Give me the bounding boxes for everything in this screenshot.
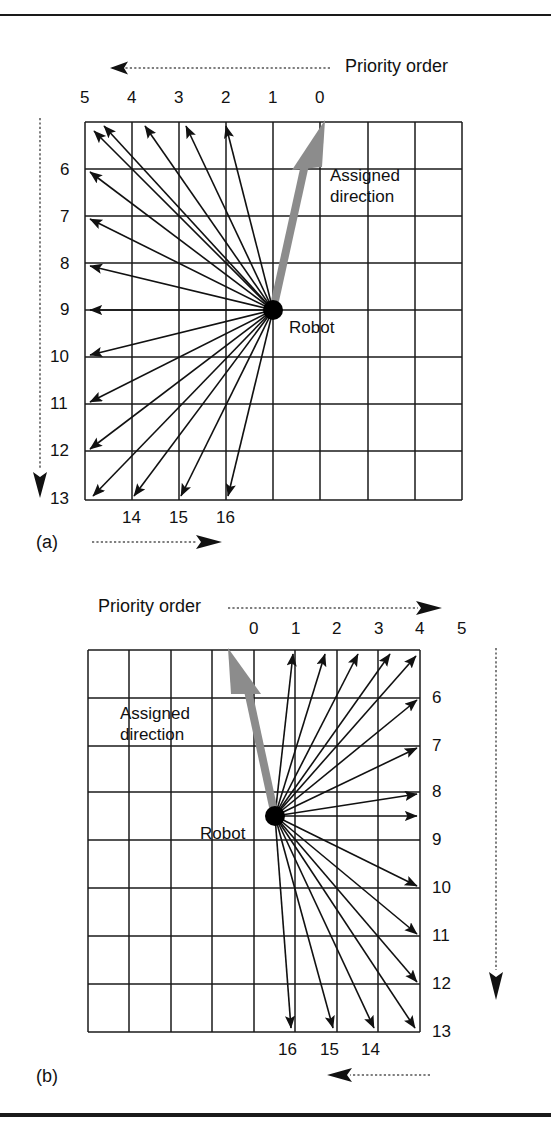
panel-a-assigned-arrow — [273, 120, 325, 310]
panel-a-top-priority-1: 1 — [268, 88, 277, 107]
panel-b-assigned-arrow — [228, 648, 275, 816]
panel-b-bottom-priority-14: 14 — [361, 1040, 380, 1059]
ray-a-p1 — [226, 126, 273, 310]
figure-svg — [0, 0, 551, 1132]
panel-b-horizontal-axis-arrow — [327, 1068, 430, 1082]
panel-a-top-priority-2: 2 — [221, 88, 230, 107]
ray-b-p12 — [275, 816, 417, 982]
ray-a-p12 — [90, 310, 273, 449]
panel-b-right-priority-9: 9 — [432, 830, 441, 849]
robot-dot-b — [265, 806, 285, 826]
panel-b-bottom-priority-16: 16 — [278, 1040, 297, 1059]
panel-b-top-priority-5: 5 — [457, 619, 466, 638]
ray-a-p10 — [90, 310, 273, 355]
panel-b-top-priority-0: 0 — [249, 619, 258, 638]
panel-a-assigned-direction-label: Assigned direction — [330, 166, 400, 207]
ray-a-p15 — [181, 310, 273, 496]
panel-a-left-priority-8: 8 — [60, 254, 69, 273]
ray-a-p5 — [94, 131, 273, 310]
panel-a-left-priority-13: 13 — [50, 489, 69, 508]
panel-a-top-priority-5: 5 — [80, 88, 89, 107]
panel-a-priority-rays — [90, 126, 273, 496]
panel-a-top-priority-0: 0 — [315, 88, 324, 107]
panel-a-left-priority-12: 12 — [50, 441, 69, 460]
panel-a-priority-axis-arrow — [110, 62, 330, 75]
panel-b-top-priority-2: 2 — [332, 619, 341, 638]
panel-a-robot-label: Robot — [289, 318, 334, 337]
panel-a-assigned-direction-line1: Assigned — [330, 166, 400, 187]
panel-b-right-priority-13: 13 — [432, 1022, 451, 1041]
panel-a-bottom-priority-16: 16 — [216, 508, 235, 527]
panel-b-right-priority-12: 12 — [432, 974, 451, 993]
ray-a-p4 — [104, 126, 273, 310]
ray-a-p2 — [186, 126, 273, 310]
panel-b-priority-axis-arrow — [228, 601, 442, 615]
panel-a-left-priority-6: 6 — [60, 160, 69, 179]
panel-b-top-priority-3: 3 — [374, 619, 383, 638]
panel-a-priority-order-label: Priority order — [345, 56, 448, 76]
ray-a-p7 — [90, 219, 273, 310]
panel-b-right-priority-10: 10 — [432, 878, 451, 897]
panel-b-top-priority-1: 1 — [291, 619, 300, 638]
panel-a-top-priority-4: 4 — [127, 88, 136, 107]
panel-a-bottom-priority-14: 14 — [122, 508, 141, 527]
panel-b-assigned-direction-label: Assigned direction — [120, 704, 190, 745]
panel-a-group — [33, 62, 462, 550]
panel-a-horizontal-axis-arrow — [92, 535, 222, 549]
ray-b-p13 — [275, 816, 415, 1028]
panel-b-tag: (b) — [36, 1066, 58, 1087]
panel-b-right-priority-11: 11 — [432, 926, 450, 945]
panel-a-left-priority-9: 9 — [60, 300, 69, 319]
panel-a-left-priority-10: 10 — [50, 347, 69, 366]
ray-a-p6 — [90, 172, 273, 310]
panel-b-right-priority-6: 6 — [432, 688, 441, 707]
ray-a-p3 — [145, 126, 273, 310]
panel-b-right-priority-8: 8 — [432, 782, 441, 801]
panel-b-robot-label: Robot — [200, 824, 245, 843]
panel-b-priority-rays — [275, 654, 417, 1028]
panel-b-right-priority-7: 7 — [432, 736, 441, 755]
ray-a-p11 — [90, 310, 273, 402]
bottom-rule — [0, 1113, 551, 1117]
panel-a-left-priority-7: 7 — [60, 207, 69, 226]
panel-a-left-priority-11: 11 — [50, 394, 68, 413]
panel-b-vertical-axis-arrow — [489, 648, 503, 1000]
ray-a-p13 — [93, 310, 273, 496]
ray-a-p14 — [134, 310, 273, 496]
panel-a-tag: (a) — [36, 532, 58, 553]
panel-a-vertical-axis-arrow — [33, 118, 47, 498]
panel-a-assigned-direction-line2: direction — [330, 187, 400, 208]
panel-b-assigned-direction-line2: direction — [120, 725, 190, 746]
figure-stage: Priority order 5 4 3 2 1 0 6 7 8 9 10 11… — [0, 0, 551, 1132]
panel-b-top-priority-4: 4 — [415, 619, 424, 638]
panel-b-bottom-priority-15: 15 — [320, 1040, 339, 1059]
panel-a-bottom-priority-15: 15 — [169, 508, 188, 527]
ray-a-p16 — [228, 310, 273, 496]
panel-b-assigned-direction-line1: Assigned — [120, 704, 190, 725]
ray-a-p8 — [90, 266, 273, 310]
panel-a-top-priority-3: 3 — [174, 88, 183, 107]
robot-dot-a — [263, 300, 283, 320]
panel-b-priority-order-label: Priority order — [98, 596, 201, 616]
